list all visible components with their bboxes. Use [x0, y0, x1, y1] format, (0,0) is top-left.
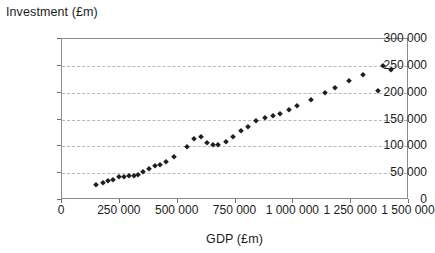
- x-axis-tick-mark: [408, 199, 409, 203]
- data-point: [277, 111, 283, 117]
- y-axis-tick-label: 50 000: [373, 165, 431, 179]
- gridline: [62, 66, 407, 67]
- y-axis-tick-mark: [57, 38, 61, 39]
- data-point: [198, 134, 204, 140]
- data-point: [237, 128, 243, 134]
- y-axis-tick-mark: [57, 92, 61, 93]
- x-axis-tick-mark: [61, 199, 62, 203]
- data-point: [245, 124, 251, 130]
- y-axis-tick-label: 200 000: [373, 85, 431, 99]
- data-point: [191, 136, 197, 142]
- x-axis-tick-mark: [292, 199, 293, 203]
- x-axis-tick-mark: [119, 199, 120, 203]
- x-axis-tick-mark: [177, 199, 178, 203]
- data-point: [331, 85, 337, 91]
- y-axis-tick-mark: [57, 119, 61, 120]
- y-axis-title: Investment (£m): [6, 5, 98, 19]
- data-point: [93, 182, 99, 188]
- x-axis-tick-label: 250 000: [97, 203, 140, 217]
- data-point: [215, 142, 221, 148]
- data-point: [223, 139, 229, 145]
- data-point: [140, 169, 146, 175]
- x-axis-tick-label: 1 500 000: [381, 203, 434, 217]
- y-axis-tick-label: 100 000: [373, 138, 431, 152]
- data-point: [346, 78, 352, 84]
- x-axis-tick-label: 1 250 000: [323, 203, 376, 217]
- x-axis-tick-mark: [235, 199, 236, 203]
- gridline: [62, 120, 407, 121]
- data-point: [230, 134, 236, 140]
- data-point: [308, 97, 314, 103]
- x-axis-tick-mark: [350, 199, 351, 203]
- x-axis-tick-label: 500 000: [155, 203, 198, 217]
- x-axis-title: GDP (£m): [61, 232, 408, 246]
- data-point: [360, 72, 366, 78]
- y-axis-tick-mark: [57, 172, 61, 173]
- gridline: [62, 173, 407, 174]
- data-point: [253, 117, 259, 123]
- y-axis-tick-label: 250 000: [373, 58, 431, 72]
- data-point: [269, 113, 275, 119]
- y-axis-tick-label: 150 000: [373, 112, 431, 126]
- gridline: [62, 146, 407, 147]
- x-axis-tick-label: 0: [58, 203, 65, 217]
- x-axis-tick-label: 1 000 000: [266, 203, 319, 217]
- y-axis-tick-mark: [57, 145, 61, 146]
- y-axis-tick-mark: [57, 65, 61, 66]
- data-point: [171, 153, 177, 159]
- y-axis-tick-label: 300 000: [373, 31, 431, 45]
- data-point: [146, 166, 152, 172]
- data-point: [157, 161, 163, 167]
- x-axis-tick-label: 750 000: [213, 203, 256, 217]
- gridline: [62, 93, 407, 94]
- data-point: [294, 103, 300, 109]
- data-point: [184, 144, 190, 150]
- data-point: [286, 107, 292, 113]
- data-point: [322, 90, 328, 96]
- plot-area: [61, 38, 408, 199]
